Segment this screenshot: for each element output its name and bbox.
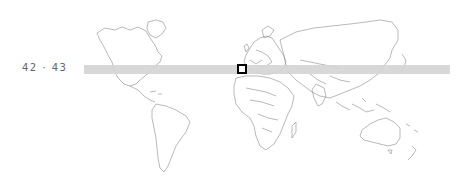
south-america-outline (152, 104, 190, 172)
greenland-outline (147, 20, 166, 38)
central-america-outline (130, 86, 155, 102)
world-map (0, 0, 458, 189)
india-outline (312, 84, 326, 106)
asia-outline (280, 20, 398, 98)
location-marker[interactable] (237, 64, 247, 74)
latitude-band (84, 65, 450, 74)
africa-outline (234, 76, 294, 150)
australia-outline (360, 118, 400, 146)
